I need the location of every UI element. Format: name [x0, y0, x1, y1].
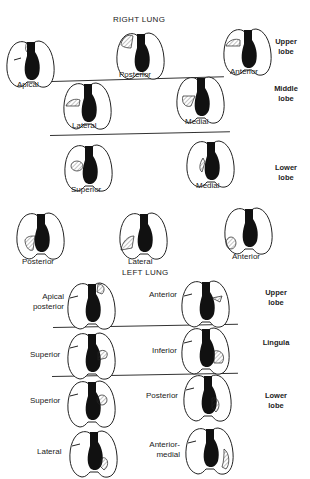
lung-diagram-left-lower-lateral — [68, 428, 120, 479]
segment-label-apical-posterior: Apical posterior — [26, 292, 64, 312]
segment-label-anterior: Anterior — [230, 67, 258, 76]
segment-label-anterior-medial: Anterior-medial — [140, 440, 180, 460]
segment-label-posterior: Posterior — [119, 70, 151, 79]
segment-label-lower-anterior: Anterior — [232, 252, 260, 261]
lung-diagram-lingula-superior — [66, 330, 118, 382]
lung-diagram-left-anterior-medial — [184, 425, 236, 477]
lung-diagram-left-lower-superior — [66, 378, 118, 430]
right-lower-lobe-label: Lower lobe — [268, 163, 304, 183]
segment-label-left-lower-superior: Superior — [30, 396, 60, 405]
left-upper-lobe-label: Upper lobe — [258, 288, 294, 308]
right-lung-title: RIGHT LUNG — [113, 15, 165, 24]
left-lung-title: LEFT LUNG — [122, 268, 169, 277]
lung-diagram-lingula-inferior — [180, 325, 232, 377]
segment-label-superior: Superior — [71, 185, 101, 194]
segment-label-lateral: Lateral — [72, 121, 96, 130]
right-middle-lobe-label: Middle lobe — [268, 84, 304, 104]
segment-label-left-lower-lateral: Lateral — [37, 447, 61, 456]
segment-label-left-anterior: Anterior — [149, 290, 177, 299]
left-lower-lobe-label: Lower lobe — [258, 391, 294, 411]
segment-label-medial: Medial — [185, 117, 209, 126]
segment-label-lower-lateral: Lateral — [128, 257, 152, 266]
lung-diagram-right-lower-posterior — [15, 210, 67, 262]
lung-diagram-left-anterior — [180, 278, 232, 330]
segment-label-lingula-inferior: Inferior — [152, 346, 177, 355]
segment-label-lower-medial: Medial — [196, 181, 220, 190]
segment-label-left-lower-posterior: Posterior — [146, 391, 178, 400]
lingula-label: Lingula — [258, 338, 294, 348]
lung-diagram-right-lower-lateral — [118, 210, 170, 262]
lung-diagram-left-lower-posterior — [182, 372, 234, 424]
segment-label-lower-posterior: Posterior — [22, 257, 54, 266]
segment-label-apical: Apical — [17, 80, 39, 89]
lung-diagram-right-lower-anterior — [223, 205, 275, 257]
lung-diagram-left-apical-posterior — [66, 280, 118, 332]
segment-label-lingula-superior: Superior — [30, 350, 60, 359]
